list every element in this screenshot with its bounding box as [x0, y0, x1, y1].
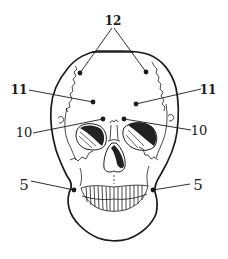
label-5-right: 5 [193, 176, 203, 194]
leader-5-right [153, 184, 190, 190]
leader-5-left [31, 181, 74, 190]
ramus-left [80, 168, 82, 186]
leader-11-right [136, 89, 201, 104]
leader-12-right [114, 28, 146, 72]
zygoma-right [168, 114, 174, 121]
point-12-right-marker [144, 70, 149, 75]
temporal-line-left [65, 108, 76, 160]
point-11-left-marker [91, 100, 96, 105]
skull-illustration: 12 11 11 10 10 5 5 [0, 0, 228, 259]
zygoma-left [58, 116, 64, 123]
skull-diagram: 12 11 11 10 10 5 5 [0, 0, 228, 259]
label-10-right: 10 [191, 123, 208, 138]
leader-11-left [29, 90, 93, 102]
point-10-left-marker [101, 117, 106, 122]
label-11-left: 11 [11, 83, 28, 97]
point-5-left-marker [72, 188, 77, 193]
nasal-shading [111, 145, 124, 168]
maxilla-suture-left [70, 151, 93, 161]
suture-right [152, 62, 165, 111]
point-10-right-marker [122, 117, 127, 122]
point-12-left-marker [78, 71, 83, 76]
point-11-right-marker [134, 102, 139, 107]
label-12: 12 [105, 14, 122, 28]
label-5-left: 5 [19, 176, 29, 194]
teeth [81, 185, 148, 212]
point-5-right-marker [151, 188, 156, 193]
ramus-right [147, 166, 149, 186]
label-11-right: 11 [200, 83, 217, 97]
temporal-line-right [156, 104, 167, 158]
suture-left [66, 66, 77, 112]
maxilla-suture-right [139, 147, 158, 160]
nasal-bridge [108, 120, 120, 141]
label-10-left: 10 [16, 125, 33, 140]
